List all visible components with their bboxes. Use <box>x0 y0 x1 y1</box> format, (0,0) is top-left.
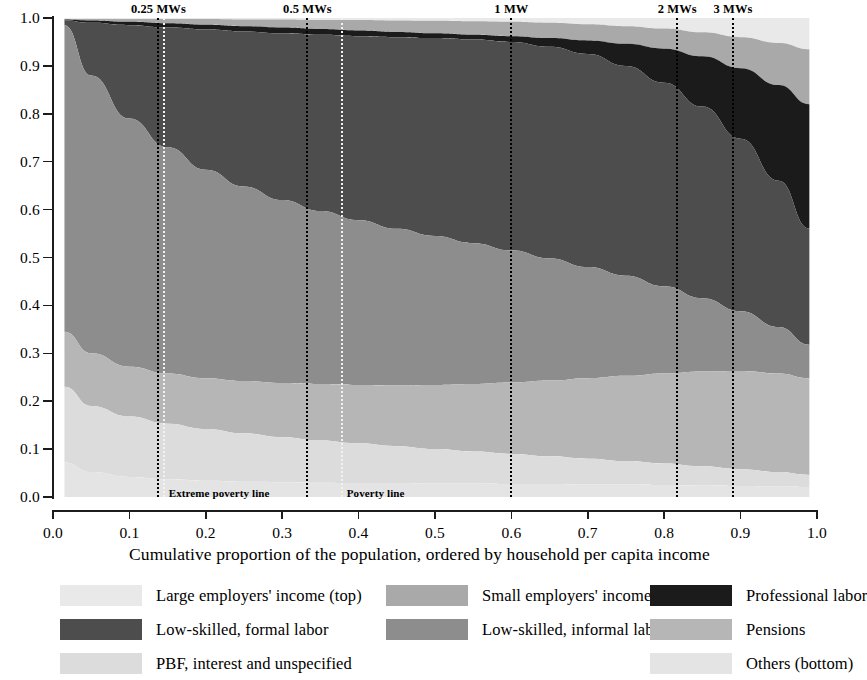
reference-line-3-mws <box>732 18 734 497</box>
y-tick-label: 0.3 <box>0 345 40 360</box>
legend-label: Small employers' income <box>482 585 651 606</box>
x-tick-label: 0.8 <box>634 524 694 542</box>
x-tick-mark <box>434 510 436 519</box>
legend-swatch <box>650 653 732 674</box>
y-tick-mark <box>43 209 52 211</box>
x-tick-mark <box>663 510 665 519</box>
legend-label: Professional labor <box>746 585 867 606</box>
reference-label-bottom: Poverty line <box>347 487 405 499</box>
y-tick-mark <box>43 161 52 163</box>
reference-line-2-mws <box>676 18 678 497</box>
y-tick-mark <box>43 400 52 402</box>
x-tick-mark <box>511 510 513 519</box>
x-tick-label: 0.4 <box>329 524 389 542</box>
legend-swatch <box>650 585 732 606</box>
y-tick-label: 0.7 <box>0 154 40 169</box>
y-tick-label: 0.6 <box>0 202 40 217</box>
y-tick-label: 1.0 <box>0 10 40 25</box>
reference-line-extreme-poverty-line <box>163 18 165 497</box>
y-axis-spine <box>52 16 54 499</box>
x-tick-mark <box>205 510 207 519</box>
y-tick-label: 0.0 <box>0 489 40 504</box>
y-tick-mark <box>43 65 52 67</box>
legend-swatch <box>60 653 142 674</box>
legend-label: Low-skilled, informal labor <box>482 619 668 640</box>
stacked-area-svg <box>53 18 817 497</box>
stacked-area-plot <box>53 18 817 497</box>
plot-region: 0.00.10.20.30.40.50.60.70.80.91.0 0.00.1… <box>0 0 839 545</box>
legend-swatch <box>650 619 732 640</box>
x-tick-mark <box>358 510 360 519</box>
y-tick-mark <box>43 353 52 355</box>
legend-swatch <box>60 619 142 640</box>
x-tick-label: 0.0 <box>23 524 83 542</box>
x-tick-label: 1.0 <box>787 524 847 542</box>
y-tick-label: 0.4 <box>0 297 40 312</box>
legend-label: Others (bottom) <box>746 653 853 674</box>
x-tick-label: 0.2 <box>176 524 236 542</box>
reference-label-top: 0.25 MWs <box>98 2 218 17</box>
legend-swatch <box>386 619 468 640</box>
x-tick-label: 0.1 <box>99 524 159 542</box>
y-tick-label: 0.2 <box>0 393 40 408</box>
y-tick-label: 0.9 <box>0 58 40 73</box>
legend-label: PBF, interest and unspecified <box>156 653 352 674</box>
y-tick-mark <box>43 113 52 115</box>
legend-row: PBF, interest and unspecifiedOthers (bot… <box>0 651 839 679</box>
x-tick-label: 0.5 <box>405 524 465 542</box>
x-tick-label: 0.3 <box>252 524 312 542</box>
x-tick-mark <box>587 510 589 519</box>
y-tick-mark <box>43 496 52 498</box>
legend-swatch <box>386 585 468 606</box>
reference-label-bottom: Extreme poverty line <box>169 487 270 499</box>
legend-row: Large employers' income (top)Small emplo… <box>0 583 839 611</box>
reference-label-top: 3 MWs <box>673 2 793 17</box>
y-tick-label: 0.8 <box>0 106 40 121</box>
reference-line-1-mw <box>510 18 512 497</box>
y-tick-mark <box>43 17 52 19</box>
y-tick-label: 0.1 <box>0 441 40 456</box>
y-tick-label: 0.5 <box>0 250 40 265</box>
reference-label-top: 0.5 MWs <box>247 2 367 17</box>
reference-line-0-5-mws <box>306 18 308 497</box>
legend-label: Pensions <box>746 619 805 640</box>
x-tick-mark <box>816 510 818 519</box>
legend-label: Large employers' income (top) <box>156 585 362 606</box>
x-tick-label: 0.6 <box>481 524 541 542</box>
reference-label-top: 1 MW <box>451 2 571 17</box>
x-tick-label: 0.7 <box>558 524 618 542</box>
y-tick-mark <box>43 305 52 307</box>
reference-line-poverty-line <box>341 18 343 497</box>
legend-row: Low-skilled, formal laborLow-skilled, in… <box>0 617 839 645</box>
y-tick-mark <box>43 448 52 450</box>
y-tick-mark <box>43 257 52 259</box>
legend-label: Low-skilled, formal labor <box>156 619 329 640</box>
x-tick-mark <box>740 510 742 519</box>
x-tick-mark <box>129 510 131 519</box>
x-tick-mark <box>281 510 283 519</box>
x-axis-title: Cumulative proportion of the population,… <box>0 544 839 565</box>
x-tick-label: 0.9 <box>711 524 771 542</box>
x-tick-mark <box>52 510 54 519</box>
legend-swatch <box>60 585 142 606</box>
chart-legend: Large employers' income (top)Small emplo… <box>0 583 839 680</box>
reference-line-0-25-mws <box>157 18 159 497</box>
